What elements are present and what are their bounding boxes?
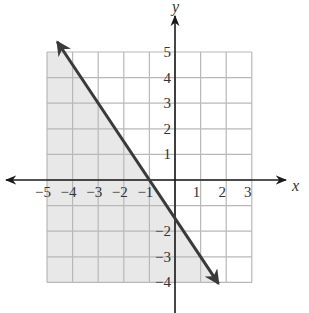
- x-axis-label: x: [291, 177, 299, 194]
- y-tick-label: −2: [155, 223, 171, 239]
- y-tick-label: −4: [155, 274, 171, 290]
- y-tick-label: 2: [164, 121, 172, 137]
- y-tick-label: 3: [164, 95, 172, 111]
- y-tick-label: 1: [164, 146, 172, 162]
- y-tick-label: 4: [164, 70, 172, 86]
- x-tick-label: −3: [86, 184, 102, 200]
- x-tick-label: −1: [137, 184, 153, 200]
- x-tick-label: −5: [35, 184, 51, 200]
- y-tick-label: 5: [164, 44, 172, 60]
- x-tick-label: 2: [218, 184, 226, 200]
- x-tick-label: −2: [112, 184, 128, 200]
- x-tick-label: 1: [193, 184, 201, 200]
- y-tick-label: −3: [155, 249, 171, 265]
- x-tick-label: −4: [61, 184, 77, 200]
- inequality-graph: −5−4−3−2−112354321−2−3−4 x y: [0, 0, 309, 313]
- y-axis-label: y: [170, 0, 180, 16]
- x-tick-label: 3: [244, 184, 252, 200]
